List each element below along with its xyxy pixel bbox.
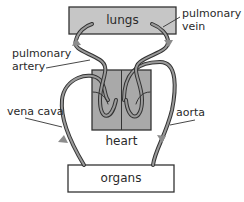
- arrow-pulmonary-artery: [72, 38, 81, 46]
- pulmonary-vein-label-2: vein: [182, 21, 205, 33]
- pulmonary-artery-label-2: artery: [12, 61, 45, 73]
- organs-label: organs: [68, 171, 174, 185]
- pulmonary-vein-label-1: pulmonary: [182, 8, 241, 20]
- leader-pulmonary-artery: [46, 60, 90, 68]
- aorta-label: aorta: [176, 107, 205, 119]
- arrow-vena-cava: [58, 135, 68, 143]
- leader-vena-cava: [25, 118, 62, 127]
- lungs-label: lungs: [69, 13, 176, 27]
- leader-aorta: [170, 120, 195, 125]
- heart-label: heart: [92, 134, 151, 148]
- vena-cava-label: vena cava: [7, 106, 64, 118]
- pulmonary-artery-label-1: pulmonary: [12, 48, 71, 60]
- arrow-aorta: [157, 135, 166, 143]
